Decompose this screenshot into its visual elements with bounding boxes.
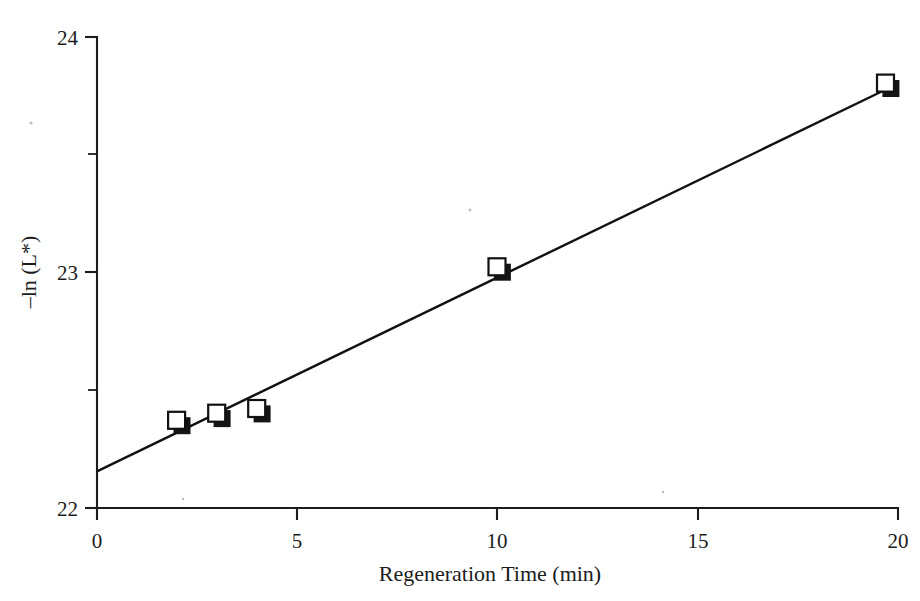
y-tick-label-22: 22 [57,497,78,521]
x-tick-label-15: 15 [688,529,709,553]
x-axis-title: Regeneration Time (min) [379,561,601,586]
x-tick-label-0: 0 [92,529,103,553]
plot-background [0,0,920,601]
x-tick-label-5: 5 [292,529,303,553]
x-tick-label-20: 20 [888,529,909,553]
chart-figure: 24 23 22 0 5 10 15 20 Regeneration Time … [0,0,920,601]
y-axis-title: –ln (L*) [16,236,41,310]
y-tick-label-23: 23 [57,261,78,285]
scatter-plot-svg: 24 23 22 0 5 10 15 20 Regeneration Time … [0,0,920,601]
x-tick-label-10: 10 [487,529,508,553]
y-tick-label-24: 24 [57,26,79,50]
